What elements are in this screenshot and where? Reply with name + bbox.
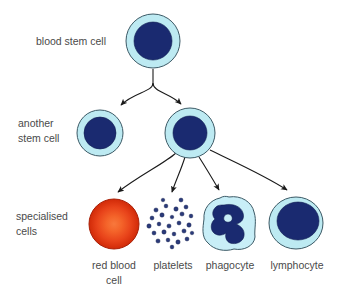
row-label-specialised-cells-line2: cells [16,225,37,237]
cell-lymphocyte [269,197,323,249]
cell-label-red-blood-cell-line1: red blood [92,259,136,271]
cell-phagocyte [203,196,255,250]
cell-label-platelets: platelets [153,259,192,271]
red-blood-cell-body [89,199,139,249]
blood-stem-cell-nucleus [134,22,172,60]
another-stem-cell-nucleus [84,117,116,149]
row-label-specialised-cells-line1: specialised [16,210,68,222]
row-label-another-stem-cell-line2: stem cell [18,132,59,144]
blood-cell-differentiation-diagram: blood stem cell another stem cell specia… [0,0,346,298]
dividing-stem-cell-nucleus [173,116,207,150]
row-label-another-stem-cell-line1: another [18,117,54,129]
cell-label-phagocyte: phagocyte [206,259,255,271]
cell-red-blood-cell [89,199,139,249]
cell-blood-stem-cell [126,14,180,68]
row-label-blood-stem-cell: blood stem cell [36,35,106,47]
cell-dividing-stem-cell [165,108,215,158]
cell-label-lymphocyte: lymphocyte [270,259,323,271]
cell-another-stem-cell [77,110,123,156]
lymphocyte-nucleus [277,202,319,240]
cell-label-red-blood-cell-line2: cell [106,274,122,286]
